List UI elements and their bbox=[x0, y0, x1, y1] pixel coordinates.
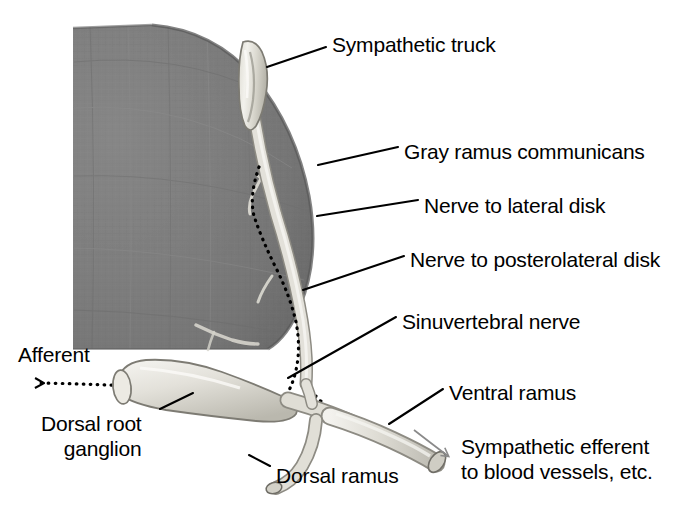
label-sympathetic-efferent: Sympathetic efferent to blood vessels, e… bbox=[461, 434, 653, 484]
ventral-ramus-body bbox=[330, 416, 436, 463]
leader-nerve-to-posterolateral-disk bbox=[303, 256, 404, 290]
ramus-junction bbox=[306, 384, 312, 404]
leader-ventral-ramus bbox=[389, 389, 443, 424]
label-gray-ramus-communicans: Gray ramus communicans bbox=[404, 139, 645, 164]
leader-sympathetic-truck bbox=[267, 47, 326, 67]
leader-nerve-to-lateral-disk bbox=[317, 200, 418, 216]
anatomical-diagram-figure: Sympathetic truck Gray ramus communicans… bbox=[0, 0, 683, 513]
vertebral-body-mass bbox=[73, 24, 313, 352]
vertebral-body-texture bbox=[73, 25, 313, 349]
label-ventral-ramus: Ventral ramus bbox=[449, 380, 576, 405]
label-nerve-to-lateral-disk: Nerve to lateral disk bbox=[424, 193, 605, 218]
label-dorsal-root-ganglion: Dorsal root ganglion bbox=[41, 411, 142, 461]
label-sinuvertebral-nerve: Sinuvertebral nerve bbox=[402, 309, 580, 334]
label-afferent: Afferent bbox=[18, 342, 90, 367]
leader-gray-ramus-communicans bbox=[318, 147, 398, 165]
label-sympathetic-truck: Sympathetic truck bbox=[332, 32, 496, 57]
label-dorsal-ramus: Dorsal ramus bbox=[276, 463, 398, 488]
leader-dorsal-ramus bbox=[249, 455, 270, 466]
label-nerve-to-posterolateral-disk: Nerve to posterolateral disk bbox=[410, 247, 660, 272]
